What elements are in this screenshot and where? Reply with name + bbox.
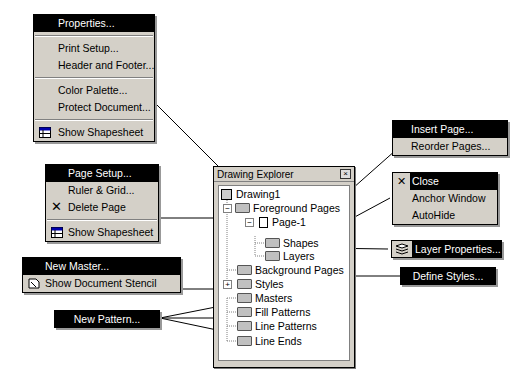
tree-node-background-pages[interactable]: Background Pages (237, 263, 344, 277)
tree-node-shapes[interactable]: Shapes (265, 236, 319, 250)
folder-icon (237, 336, 252, 346)
tree-node-label: Fill Patterns (255, 306, 310, 318)
collapse-toggle[interactable]: − (223, 204, 232, 213)
layers-icon (392, 241, 412, 257)
menu-item-page-setup[interactable]: Page Setup... (46, 165, 158, 182)
tree-node-label: Shapes (283, 237, 319, 249)
foreground-pages-context-menu: Insert Page... Reorder Pages... (392, 120, 508, 156)
shapesheet-icon (51, 227, 63, 238)
close-button[interactable]: × (340, 169, 351, 179)
menu-item-print-setup[interactable]: Print Setup... (34, 40, 154, 57)
tree-node-layers[interactable]: Layers (265, 249, 315, 263)
layer-properties-button[interactable]: Layer Properties... (391, 240, 502, 258)
tree-node-label: Drawing1 (236, 188, 280, 200)
menu-separator (35, 119, 153, 121)
menu-item-show-shapesheet[interactable]: Show Shapesheet (34, 124, 154, 141)
drawing-icon (221, 189, 232, 200)
menu-item-label: Close (410, 173, 497, 190)
menu-item-show-shapesheet[interactable]: Show Shapesheet (46, 224, 158, 241)
menu-item-label: Show Shapesheet (68, 226, 153, 238)
tree-node-styles[interactable]: Styles (237, 277, 284, 291)
folder-icon (265, 238, 280, 248)
tree-node-label: Styles (255, 278, 284, 290)
tree-node-masters[interactable]: Masters (237, 291, 292, 305)
expand-toggle[interactable]: + (223, 280, 232, 289)
menu-item-label: Delete Page (68, 201, 126, 213)
stencil-icon (28, 278, 40, 289)
menu-item-protect-document[interactable]: Protect Document... (34, 99, 154, 116)
masters-context-menu: New Master... Show Document Stencil (22, 257, 181, 293)
menu-item-color-palette[interactable]: Color Palette... (34, 82, 154, 99)
menu-item-ruler-grid[interactable]: Ruler & Grid... (46, 182, 158, 199)
tree-node-page-1[interactable]: Page-1 (259, 215, 306, 229)
menu-item-label: Show Document Stencil (45, 277, 156, 289)
tree-node-label: Layers (283, 250, 315, 262)
menu-item-show-document-stencil[interactable]: Show Document Stencil (23, 275, 180, 292)
tree-node-label: Background Pages (255, 264, 344, 276)
collapse-toggle[interactable]: − (245, 218, 254, 227)
tree-node-fill-patterns[interactable]: Fill Patterns (237, 305, 310, 319)
tree-node-line-patterns[interactable]: Line Patterns (237, 319, 317, 333)
folder-icon (265, 251, 280, 261)
explorer-window-menu: ✕Close Anchor Window AutoHide (392, 172, 498, 225)
folder-icon (237, 265, 252, 275)
tree-node-drawing1[interactable]: Drawing1 (221, 187, 280, 201)
tree-node-label: Page-1 (272, 216, 306, 228)
menu-item-label: Show Shapesheet (58, 126, 143, 138)
menu-item-delete-page[interactable]: ✕ Delete Page (46, 199, 158, 216)
explorer-title-bar[interactable]: Drawing Explorer × (214, 167, 354, 182)
menu-item-properties[interactable]: Properties... (34, 15, 154, 32)
menu-item-close[interactable]: ✕Close (393, 173, 497, 190)
folder-icon (237, 279, 252, 289)
page-icon (259, 217, 268, 228)
menu-separator (35, 77, 153, 79)
menu-item-header-footer[interactable]: Header and Footer... (34, 57, 154, 74)
folder-icon (237, 293, 252, 303)
menu-item-anchor-window[interactable]: Anchor Window (393, 190, 497, 207)
delete-x-icon: ✕ (51, 201, 63, 212)
drawing-explorer-window: Drawing Explorer × Drawing1 − (213, 166, 355, 368)
tree-node-label: Line Patterns (255, 320, 317, 332)
explorer-title: Drawing Explorer (217, 169, 294, 180)
menu-item-reorder-pages[interactable]: Reorder Pages... (393, 138, 507, 155)
tree-node-foreground-pages[interactable]: Foreground Pages (235, 201, 340, 215)
menu-item-insert-page[interactable]: Insert Page... (393, 121, 507, 138)
tree-node-label: Foreground Pages (253, 202, 340, 214)
button-label: Layer Properties... (412, 243, 501, 255)
tree-node-label: Masters (255, 292, 292, 304)
page-context-menu: Page Setup... Ruler & Grid... ✕ Delete P… (45, 164, 159, 242)
folder-icon (237, 321, 252, 331)
close-x-icon: ✕ (393, 173, 410, 190)
shapesheet-icon (39, 127, 51, 138)
tree-node-line-ends[interactable]: Line Ends (237, 334, 302, 348)
define-styles-button[interactable]: Define Styles... (400, 267, 496, 285)
folder-open-icon (235, 203, 250, 213)
new-pattern-button[interactable]: New Pattern... (54, 310, 160, 328)
menu-separator (35, 35, 153, 37)
explorer-tree: Drawing1 − Foreground Pages − Page-1 Sha… (218, 185, 350, 361)
tree-node-label: Line Ends (255, 335, 302, 347)
menu-item-new-master[interactable]: New Master... (23, 258, 180, 275)
menu-separator (47, 219, 157, 221)
folder-icon (237, 307, 252, 317)
document-context-menu: Properties... Print Setup... Header and … (33, 14, 155, 142)
menu-item-autohide[interactable]: AutoHide (393, 207, 497, 224)
